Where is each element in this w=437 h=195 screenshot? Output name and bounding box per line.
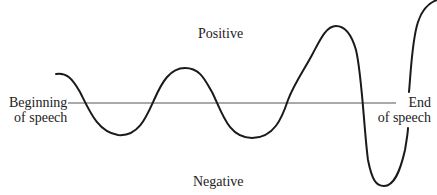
- speech-structure-diagram: Positive Negative Beginning of speech En…: [0, 0, 437, 195]
- beginning-label-line2: of speech: [9, 110, 67, 125]
- beginning-label-line1: Beginning: [9, 95, 67, 110]
- end-of-speech-label: End of speech: [378, 95, 431, 125]
- emotional-curve-final-rise: [409, 0, 437, 92]
- negative-label: Negative: [193, 174, 244, 189]
- end-label-line1: End: [378, 95, 431, 110]
- emotional-curve: [56, 26, 408, 186]
- beginning-of-speech-label: Beginning of speech: [9, 95, 67, 125]
- end-label-line2: of speech: [378, 110, 431, 125]
- positive-label: Positive: [198, 26, 243, 41]
